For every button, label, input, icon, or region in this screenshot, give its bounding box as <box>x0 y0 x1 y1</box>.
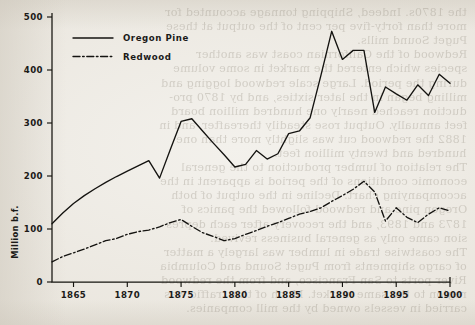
x-axis-ticks <box>74 282 450 287</box>
x-tick-label: 1890 <box>330 290 356 300</box>
y-tick-label: 300 <box>24 118 43 128</box>
x-tick-label: 1880 <box>222 290 248 300</box>
x-tick-label: 1865 <box>61 290 87 300</box>
y-tick-label: 500 <box>24 12 43 22</box>
y-tick-label: 200 <box>24 171 43 181</box>
x-tick-label: 1875 <box>168 290 194 300</box>
y-tick-label: 400 <box>24 65 43 75</box>
data-series-group <box>52 31 450 262</box>
x-axis-tick-labels: 18651870187518801885189018951900 <box>61 290 463 300</box>
y-axis-tick-labels: 0100200300400500 <box>24 12 43 287</box>
chart-legend: Oregon PineRedwood <box>73 33 189 62</box>
x-tick-label: 1870 <box>115 290 141 300</box>
x-tick-label: 1900 <box>437 290 463 300</box>
series-line-oregon-pine <box>52 31 450 223</box>
y-axis-title: Million b.f. <box>10 205 20 259</box>
x-tick-label: 1885 <box>276 290 302 300</box>
chart-svg: 0100200300400500 18651870187518801885189… <box>0 0 475 325</box>
x-tick-label: 1895 <box>383 290 409 300</box>
series-line-redwood <box>52 181 450 262</box>
legend-label: Oregon Pine <box>123 33 189 43</box>
y-axis-ticks <box>47 17 52 282</box>
chart-figure: 0100200300400500 18651870187518801885189… <box>0 0 475 325</box>
plot-area: 0100200300400500 18651870187518801885189… <box>10 12 463 300</box>
legend-label: Redwood <box>123 52 171 62</box>
axis-lines <box>52 13 450 282</box>
y-tick-label: 0 <box>37 277 43 287</box>
y-tick-label: 100 <box>24 224 43 234</box>
